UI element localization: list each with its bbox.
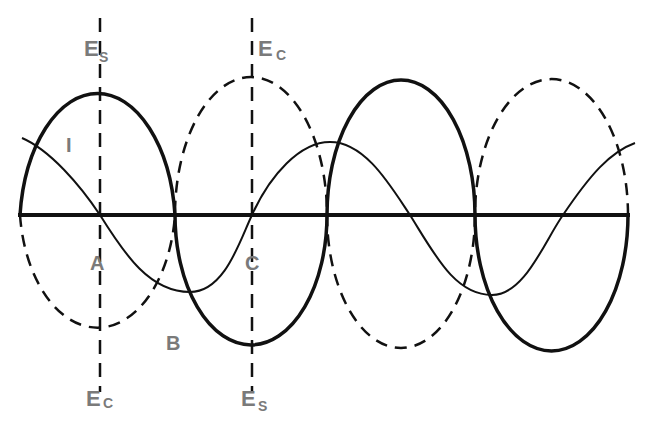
svg-text:C: C xyxy=(103,395,113,411)
phase-diagram: E S E C I A C B E C E S xyxy=(0,0,651,436)
label-point-a: A xyxy=(90,252,104,274)
svg-text:E: E xyxy=(84,36,99,61)
label-ec-top: E C xyxy=(258,36,286,63)
label-point-c: C xyxy=(245,252,259,274)
label-es-top: E S xyxy=(84,36,108,65)
label-es-bottom: E S xyxy=(241,386,267,414)
svg-text:S: S xyxy=(99,49,108,65)
svg-text:E: E xyxy=(241,386,256,411)
svg-text:C: C xyxy=(276,47,286,63)
label-current: I xyxy=(66,134,72,156)
label-point-b: B xyxy=(166,332,180,354)
ec-voltage-curve xyxy=(20,77,628,348)
label-ec-bottom: E C xyxy=(86,386,113,411)
svg-text:E: E xyxy=(258,36,273,61)
svg-text:E: E xyxy=(86,386,101,411)
svg-text:S: S xyxy=(258,398,267,414)
